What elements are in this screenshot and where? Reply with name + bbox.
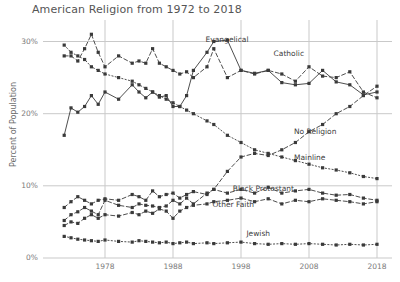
data-point	[239, 197, 242, 200]
data-point	[307, 188, 310, 191]
data-point	[63, 134, 66, 137]
data-point	[212, 47, 215, 50]
y-tick-label: 20%	[12, 109, 38, 118]
series-label-catholic: Catholic	[274, 49, 304, 58]
data-point	[131, 80, 134, 83]
data-point	[158, 94, 161, 97]
data-point	[280, 148, 283, 151]
data-point	[253, 242, 256, 245]
data-point	[185, 241, 188, 244]
data-point	[171, 192, 174, 195]
x-tick-label: 2008	[289, 262, 329, 271]
data-point	[158, 241, 161, 244]
data-point	[178, 105, 181, 108]
data-point	[158, 207, 161, 210]
series-jewish	[63, 235, 379, 247]
data-point	[239, 69, 242, 72]
data-point	[117, 98, 120, 101]
series-mainline	[63, 44, 379, 181]
data-point	[253, 152, 256, 155]
data-point	[63, 219, 66, 222]
data-point	[165, 204, 168, 207]
data-point	[76, 54, 79, 57]
data-point	[117, 54, 120, 57]
data-point	[137, 90, 140, 93]
data-point	[192, 242, 195, 245]
data-point	[137, 195, 140, 198]
data-point	[144, 204, 147, 207]
data-point	[83, 238, 86, 241]
data-point	[117, 199, 120, 202]
data-point	[294, 80, 297, 83]
data-point	[280, 202, 283, 205]
data-point	[192, 112, 195, 115]
data-point	[178, 197, 181, 200]
data-point	[131, 62, 134, 65]
y-tick-label: 30%	[12, 37, 38, 46]
data-point	[76, 195, 79, 198]
data-point	[97, 51, 100, 54]
data-point	[226, 170, 229, 173]
data-point	[362, 90, 365, 93]
data-point	[178, 241, 181, 244]
data-point	[97, 199, 100, 202]
data-point	[185, 109, 188, 112]
data-point	[90, 33, 93, 36]
x-tick-label: 1988	[153, 262, 193, 271]
data-point	[165, 241, 168, 244]
data-point	[144, 62, 147, 65]
data-point	[226, 76, 229, 79]
data-point	[117, 215, 120, 218]
data-point	[83, 47, 86, 50]
data-point	[178, 210, 181, 213]
data-point	[205, 51, 208, 54]
data-point	[348, 171, 351, 174]
data-point	[171, 69, 174, 72]
data-point	[375, 90, 378, 93]
data-point	[171, 242, 174, 245]
data-point	[151, 189, 154, 192]
data-point	[63, 235, 66, 238]
data-point	[83, 217, 86, 220]
data-point	[171, 101, 174, 104]
data-point	[267, 69, 270, 72]
series-label-jewish: Jewish	[246, 229, 270, 238]
data-point	[192, 76, 195, 79]
x-tick-label: 2018	[357, 262, 397, 271]
data-point	[239, 155, 242, 158]
data-point	[117, 204, 120, 207]
data-point	[144, 210, 147, 213]
data-point	[69, 54, 72, 57]
data-point	[294, 141, 297, 144]
data-point	[362, 94, 365, 97]
data-point	[321, 197, 324, 200]
data-point	[307, 82, 310, 85]
data-point	[280, 242, 283, 245]
data-point	[185, 206, 188, 209]
data-point	[321, 75, 324, 78]
data-point	[178, 202, 181, 205]
data-point	[137, 83, 140, 86]
data-point	[137, 202, 140, 205]
data-point	[97, 213, 100, 216]
data-point	[165, 65, 168, 68]
data-point	[335, 243, 338, 246]
data-point	[307, 200, 310, 203]
x-tick-label: 1978	[85, 262, 125, 271]
data-point	[76, 222, 79, 225]
series-label-other-faith: Other Faith	[212, 200, 254, 209]
data-point	[165, 210, 168, 213]
data-point	[165, 98, 168, 101]
data-point	[90, 210, 93, 213]
data-point	[321, 166, 324, 169]
x-tick-label: 1998	[221, 262, 261, 271]
data-point	[151, 241, 154, 244]
data-point	[335, 76, 338, 79]
data-point	[348, 243, 351, 246]
data-point	[69, 236, 72, 239]
data-point	[185, 197, 188, 200]
data-point	[63, 44, 66, 47]
data-point	[171, 217, 174, 220]
data-point	[97, 69, 100, 72]
series-evangelical	[63, 39, 379, 137]
